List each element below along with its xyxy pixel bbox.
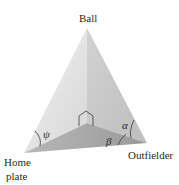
home-plate-label-line2: plate <box>6 170 27 182</box>
alpha-angle-label: α <box>122 119 128 131</box>
right-face <box>87 28 147 143</box>
beta-angle-label: β <box>106 135 111 147</box>
tetrahedron-diagram: Ball Home plate Outfielder ψ α β <box>0 0 179 185</box>
ball-label: Ball <box>79 12 97 24</box>
home-plate-label-line1: Home <box>4 156 31 168</box>
psi-angle-label: ψ <box>43 128 50 140</box>
outfielder-label: Outfielder <box>128 149 173 161</box>
